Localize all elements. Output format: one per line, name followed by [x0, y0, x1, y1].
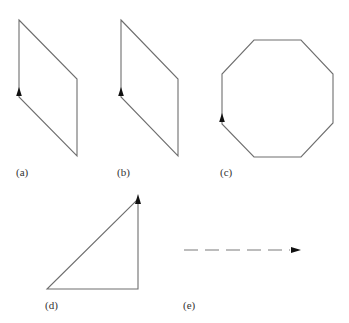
- diagram-canvas: [0, 0, 349, 323]
- triangle-d: [47, 199, 138, 289]
- panel-c: [219, 40, 333, 157]
- arrow-up-icon: [16, 87, 22, 96]
- parallelogram-b: [121, 20, 178, 156]
- label-c: (c): [220, 166, 232, 178]
- panel-e: [184, 247, 301, 253]
- label-a: (a): [16, 166, 28, 178]
- arrow-right-icon: [291, 247, 301, 253]
- panel-b: [118, 20, 178, 156]
- arrow-up-icon: [118, 87, 124, 96]
- panel-a: [16, 20, 77, 156]
- label-e: (e): [183, 299, 195, 311]
- octagon-c: [222, 40, 333, 157]
- arrow-up-icon: [219, 113, 225, 122]
- label-d: (d): [45, 299, 58, 311]
- label-b: (b): [117, 166, 130, 178]
- parallelogram-a: [19, 20, 77, 156]
- panel-d: [47, 194, 141, 289]
- arrow-up-icon: [135, 194, 141, 204]
